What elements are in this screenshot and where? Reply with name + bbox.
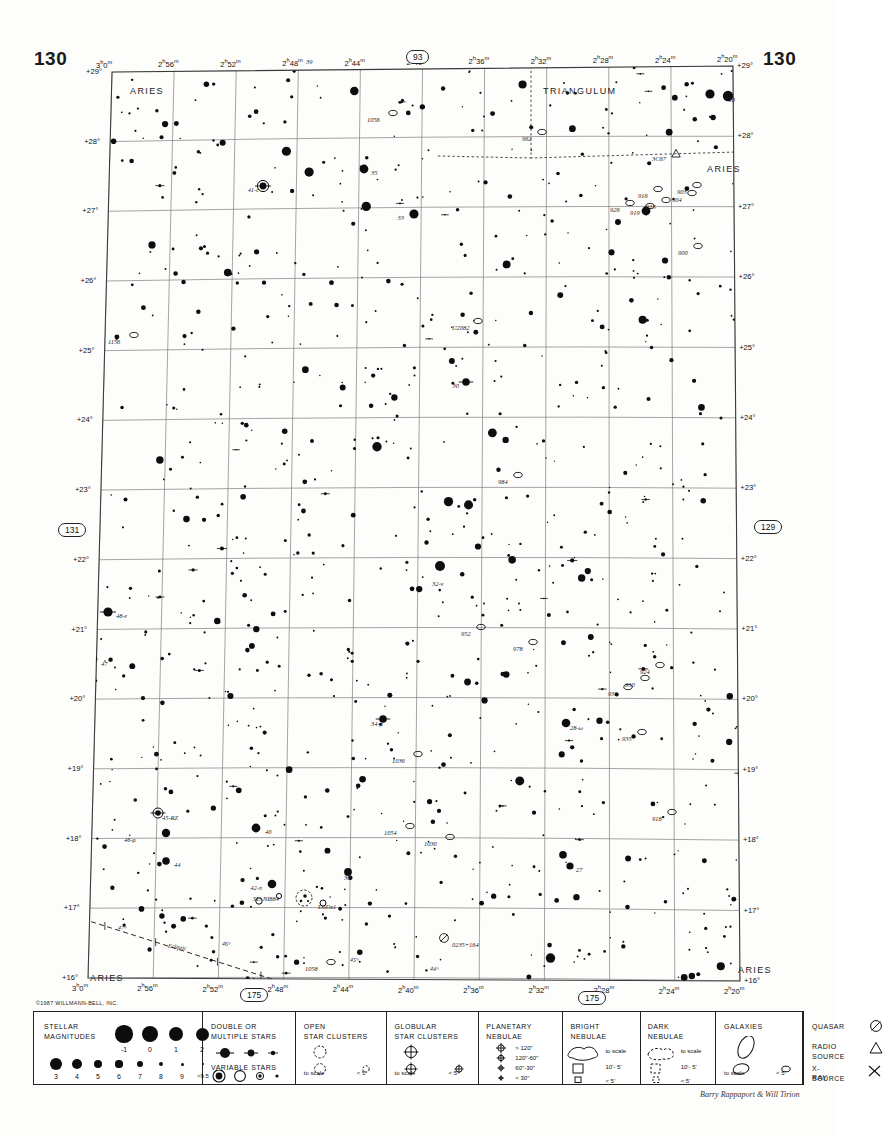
legend-galaxy-scale: to scale: [724, 1070, 745, 1076]
ecliptic-tick-3: 44°: [430, 965, 439, 972]
legend-planetary-size-1: 120"-60": [515, 1055, 538, 1061]
dec-tick-left-5: +24°: [77, 415, 93, 424]
legend-dark-size-2: < 5': [681, 1078, 691, 1084]
ra-tick-top-2: 2h52m: [220, 58, 240, 69]
deepsky-label-978: 978: [513, 645, 523, 652]
dec-tick-right-11: +18°: [743, 835, 759, 844]
deepsky-label-U2082: U2082: [452, 324, 469, 331]
dec-tick-right-9: +20°: [742, 694, 758, 703]
legend-dark-nebulae: DARK NEBULAE to scale10'- 5'< 5': [641, 1012, 716, 1084]
dec-tick-left-7: +22°: [73, 555, 89, 564]
star-label-47: 47: [101, 660, 107, 667]
ra-tick-bottom-7: 2h32m: [528, 984, 548, 995]
badge-chart-left[interactable]: 131: [58, 523, 86, 537]
deepsky-label-1056: 1056: [367, 116, 380, 123]
deepsky-label-904: 904: [672, 196, 682, 203]
legend-title-open-2: STAR CLUSTERS: [304, 1032, 368, 1041]
legend-title-bright-1: BRIGHT: [570, 1022, 599, 1031]
legend-title-galaxies: GALAXIES: [724, 1022, 763, 1031]
star-label-42-: 42-π: [216, 884, 262, 891]
xray-source-icon: [865, 1063, 887, 1079]
legend-title-planetary-1: PLANETARY: [486, 1022, 531, 1031]
legend-open-scale: to scale: [304, 1070, 325, 1076]
legend-title-open-1: OPEN: [304, 1022, 326, 1031]
star-label-44: 44: [174, 861, 180, 868]
bright-nebula-symbols: [563, 1044, 643, 1084]
deepsky-label-984: 984: [498, 478, 508, 485]
legend-galaxy-small: < 5': [776, 1070, 786, 1076]
radio-source-icon: [866, 1041, 887, 1055]
dec-tick-right-5: +24°: [740, 413, 756, 422]
deepsky-label-900: 900: [678, 249, 688, 256]
dec-tick-right-4: +25°: [739, 343, 755, 352]
ra-tick-top-3: 2h48m: [282, 57, 302, 68]
deepsky-label-935: 935: [622, 735, 632, 742]
legend-bright-size-2: < 5': [605, 1078, 615, 1084]
dec-tick-right-7: +22°: [741, 554, 757, 563]
star-label-39: 39: [306, 58, 312, 65]
star-label-48-: 48-ε: [116, 612, 127, 619]
dec-tick-left-10: +19°: [68, 764, 84, 773]
legend-planetary-size-2: 60"-30": [515, 1065, 535, 1071]
dec-tick-right-10: +19°: [742, 765, 758, 774]
ra-tick-bottom-9: 2h24m: [659, 985, 679, 996]
legend-mag-label--1: -1: [112, 1046, 136, 1053]
constellation-name-aries-3: ARIES: [90, 973, 124, 983]
deepsky-label-930: 930: [625, 681, 635, 688]
deepsky-label-918: 918: [652, 815, 662, 822]
star-label-41-c: 41-c: [213, 186, 259, 193]
badge-chart-bottom-left[interactable]: 175: [240, 988, 268, 1002]
dec-tick-right-12: +17°: [743, 906, 759, 915]
dec-tick-right-0: +29°: [737, 61, 753, 70]
deepsky-label-DoDz1: DoDz1: [318, 903, 336, 910]
quasar-icon: [866, 1019, 887, 1033]
legend-open-small: < 5': [357, 1070, 367, 1076]
author-signature: Barry Rappaport & Will Tirion: [700, 1090, 800, 1099]
legend-stellar-magnitudes: STELLAR MAGNITUDES -1012 3456789>9.5: [34, 1012, 203, 1084]
star-label-46-: 46-ρ: [124, 836, 136, 843]
legend-title-radio-1: RADIO: [812, 1042, 837, 1051]
legend-mag-dot-8: [159, 1062, 163, 1066]
constellation-name-triangulum-1: TRIANGULUM: [543, 86, 617, 96]
dec-tick-left-8: +21°: [71, 625, 87, 634]
ra-tick-bottom-10: 2h20m: [724, 985, 744, 996]
legend-title-double-1: DOUBLE OR: [211, 1022, 257, 1031]
legend-double-stars: DOUBLE OR MULTIPLE STARS VARIABLE STARS: [203, 1012, 296, 1084]
constellation-name-aries-2: ARIES: [707, 164, 741, 174]
deepsky-label-0235+164: 0235+164: [452, 941, 479, 948]
legend-mag-dot-4: [72, 1059, 83, 1070]
ra-tick-top-4: 2h44m: [344, 57, 364, 68]
ra-tick-bottom-2: 2h52m: [202, 983, 222, 994]
ra-tick-top-1: 2h56m: [158, 58, 178, 69]
star-label-32-: 32-ν: [432, 580, 443, 587]
legend-title-stellar-1: STELLAR: [44, 1022, 79, 1031]
double-star-symbols: [203, 1043, 299, 1063]
badge-chart-right[interactable]: 129: [754, 520, 782, 534]
legend-bright-size-1: 10'- 5': [605, 1064, 621, 1070]
dec-tick-left-2: +27°: [82, 206, 98, 215]
legend-title-stellar-2: MAGNITUDES: [44, 1032, 96, 1041]
badge-chart-bottom-right[interactable]: 175: [578, 991, 606, 1005]
deepsky-label-1054: 1054: [384, 829, 397, 836]
ra-tick-bottom-5: 2h40m: [398, 984, 418, 995]
dec-tick-left-3: +26°: [80, 276, 96, 285]
dec-tick-right-1: +28°: [738, 131, 754, 140]
legend-mag-dot-7: [137, 1061, 143, 1067]
legend-title-globular-2: STAR CLUSTERS: [395, 1032, 459, 1041]
dec-tick-right-13: +16°: [744, 976, 760, 985]
legend-bright-nebulae: BRIGHT NEBULAE to scale10'- 5'< 5': [563, 1012, 640, 1084]
legend-title-radio-2: SOURCE: [812, 1052, 845, 1061]
deepsky-label-915: 915: [646, 203, 656, 210]
badge-chart-top[interactable]: 93: [406, 50, 429, 64]
star-label-34-: 34-μ: [371, 720, 383, 727]
legend-mag-dot--1: [115, 1025, 132, 1042]
ra-tick-top-7: 2h32m: [531, 55, 551, 66]
sky-chart-svg: [0, 0, 835, 1010]
star-label-10: 10: [689, 96, 735, 103]
legend-title-xray-2: SOURCE: [812, 1074, 845, 1083]
constellation-name-aries-0: ARIES: [130, 86, 164, 96]
legend-bright-size-0: to scale: [605, 1048, 626, 1054]
star-label-33: 33: [358, 214, 404, 221]
deepsky-label-1036: 1036: [392, 757, 405, 764]
